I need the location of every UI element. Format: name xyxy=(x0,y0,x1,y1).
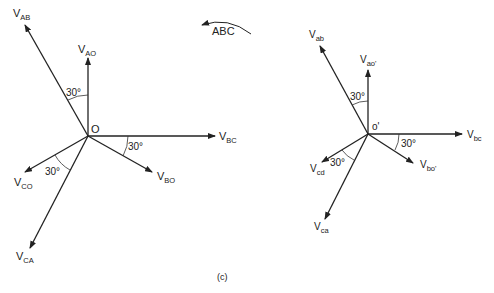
vector-v-ab xyxy=(25,25,88,136)
angle-label: 30° xyxy=(330,157,345,168)
figure-caption: (c) xyxy=(217,272,228,282)
phasor-diagram: 30° 30° 30° O VAB VAO VBC VBO VCO VCA AB… xyxy=(0,0,494,293)
label-v-ab: VAB xyxy=(13,7,30,22)
angle-label: 30° xyxy=(401,138,416,149)
angle-label: 30° xyxy=(350,91,365,102)
label-v-co: VCO xyxy=(14,176,33,191)
origin-label-prime: o' xyxy=(372,121,380,132)
angle-label: 30° xyxy=(66,87,81,98)
angle-label: 30° xyxy=(45,166,60,177)
label-v-ca-lower: Vca xyxy=(314,221,329,235)
right-phasor-group: 30° 30° 30° o' Vab Vao' Vbc Vbo' Vcd Vca xyxy=(309,29,482,235)
left-phasor-group: 30° 30° 30° O VAB VAO VBC VBO VCO VCA xyxy=(13,7,237,265)
label-v-bc: VBC xyxy=(219,130,237,145)
angle-label: 30° xyxy=(128,141,143,152)
label-v-ao: VAO xyxy=(78,43,96,58)
label-v-bo-prime: Vbo' xyxy=(420,159,437,173)
label-v-bo: VBO xyxy=(157,170,175,185)
rotation-indicator: ABC xyxy=(202,22,251,37)
label-v-ca: VCA xyxy=(16,250,34,265)
label-v-ao-prime: Vao' xyxy=(360,54,377,68)
label-v-ab-lower: Vab xyxy=(309,29,324,43)
angle-arc-bc-bo-prime xyxy=(395,134,399,150)
label-v-bc-lower: Vbc xyxy=(467,129,482,143)
origin-label: O xyxy=(91,123,100,135)
label-v-cd: Vcd xyxy=(310,163,325,177)
rotation-label: ABC xyxy=(212,25,235,37)
